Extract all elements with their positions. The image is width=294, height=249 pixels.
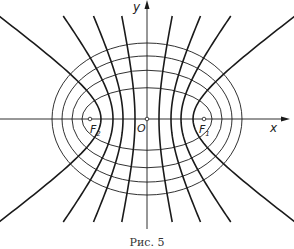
focus-f1-label: F1 bbox=[199, 123, 210, 138]
origin-point bbox=[145, 117, 149, 121]
origin-label: O bbox=[137, 122, 146, 135]
focus-f1-point bbox=[202, 117, 206, 121]
x-axis-arrow-icon bbox=[281, 117, 290, 122]
x-axis-label: x bbox=[269, 121, 278, 135]
y-axis-label: y bbox=[132, 0, 141, 14]
figure-caption: Рис. 5 bbox=[0, 236, 294, 249]
focus-f2-point bbox=[88, 117, 92, 121]
y-axis-arrow-icon bbox=[145, 0, 150, 9]
